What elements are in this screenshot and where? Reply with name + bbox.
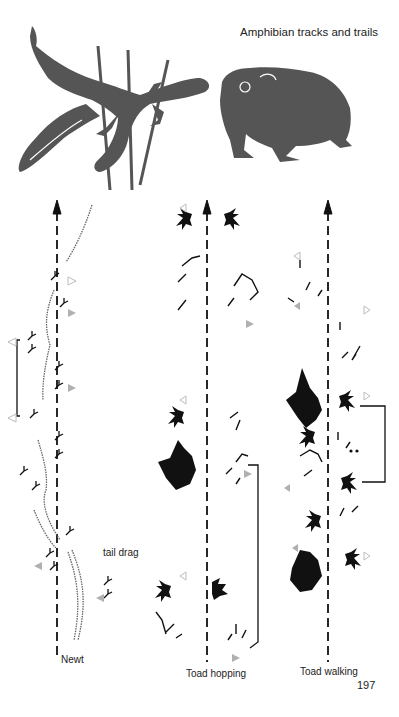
stride-bracket <box>17 340 20 416</box>
toad-hopping-label: Toad hopping <box>186 668 246 679</box>
tail-drag-label: tail drag <box>103 547 139 558</box>
toad-walking-label: Toad walking <box>300 666 358 677</box>
toad-hopping-track <box>203 200 211 662</box>
newt-track <box>53 200 61 660</box>
stride-bracket <box>248 465 258 648</box>
toad-hopping-footprints <box>155 208 240 602</box>
tracks-diagram <box>0 0 399 717</box>
arrow-up-icon <box>203 200 211 214</box>
newt-footprints <box>20 271 112 598</box>
arrow-up-icon <box>53 200 61 214</box>
stride-bracket <box>360 406 385 482</box>
newt-label: Newt <box>61 654 84 665</box>
arrow-up-icon <box>324 200 332 214</box>
toad-walking-track <box>324 200 332 662</box>
toad-walking-footprints <box>286 368 361 592</box>
page-number: 197 <box>357 679 375 691</box>
